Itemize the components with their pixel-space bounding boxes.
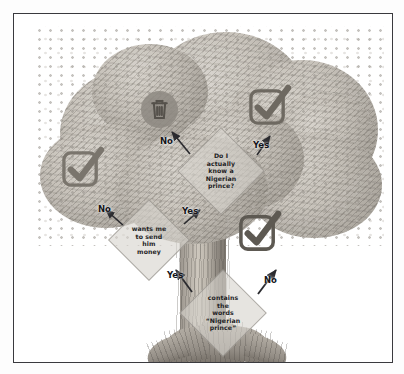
decision-node-wants-money[interactable]: wants me to send him money [108,199,190,281]
poster-frame: Do I actually know a Nigerian prince? wa… [13,13,393,363]
decision-node-label: contains the words “Nigerian prince” [180,294,266,332]
arrow-know-no [172,132,190,154]
edge-label-know-yes: Yes [253,140,269,150]
decision-node-label: wants me to send him money [106,225,192,255]
decision-node-know-prince[interactable]: Do I actually know a Nigerian prince? [177,127,265,215]
poster: Do I actually know a Nigerian prince? wa… [0,0,404,374]
decision-node-label: Do I actually know a Nigerian prince? [178,152,264,190]
checkbox-checked-icon[interactable] [60,146,105,191]
edge-label-know-no: No [160,136,173,146]
edge-label-words-no: No [264,275,277,285]
decision-node-contains-words[interactable]: contains the words “Nigerian prince” [179,269,267,357]
decision-flowchart: Do I actually know a Nigerian prince? wa… [14,14,392,362]
edge-label-money-yes: Yes [182,206,198,216]
edge-label-words-yes: Yes [167,270,183,280]
checkbox-checked-icon[interactable] [237,210,282,255]
edge-label-money-no: No [98,204,111,214]
checkbox-checked-icon[interactable] [247,84,292,129]
trash-icon[interactable] [140,90,179,129]
